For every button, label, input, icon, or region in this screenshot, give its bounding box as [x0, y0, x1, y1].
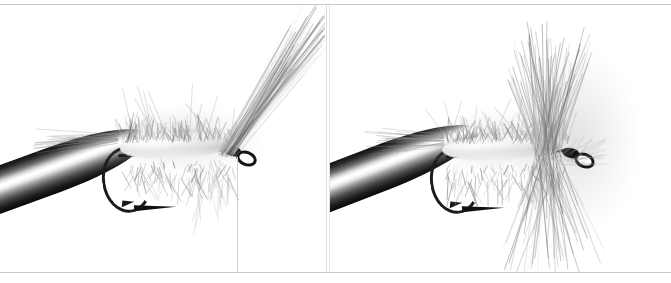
left-photo-panel[interactable] — [0, 5, 325, 272]
dubbing-fiber — [502, 180, 503, 205]
tying-thread — [237, 157, 238, 272]
photo-plate — [0, 0, 671, 283]
stray-guard-hair — [170, 117, 171, 140]
dubbing-fiber — [132, 164, 134, 174]
left-photo-stage — [0, 5, 325, 272]
dubbing-fiber — [509, 179, 510, 202]
dubbing-fiber — [192, 165, 193, 174]
panel-divider-a — [326, 5, 327, 272]
right-photo-stage — [330, 5, 671, 272]
plate-bottom-rule — [0, 272, 671, 273]
right-photo-panel[interactable] — [330, 5, 671, 272]
hook-barb — [122, 200, 135, 208]
dubbing-fiber — [461, 168, 462, 177]
